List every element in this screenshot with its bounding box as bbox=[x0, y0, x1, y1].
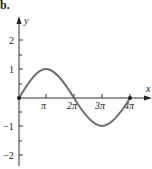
y-tick-label: 2 bbox=[9, 35, 14, 46]
y-tick-label: −2 bbox=[3, 150, 14, 161]
x-axis-label: x bbox=[145, 83, 151, 94]
y-axis-arrow-icon bbox=[17, 16, 22, 24]
y-axis-label: y bbox=[23, 15, 29, 26]
y-tick-label: 1 bbox=[9, 64, 14, 75]
end-point-marker bbox=[128, 96, 132, 100]
y-tick-label: −1 bbox=[3, 121, 14, 132]
x-axis-arrow-icon bbox=[144, 96, 152, 101]
x-ticks bbox=[46, 94, 130, 98]
x-tick-label: 3π bbox=[94, 100, 106, 111]
x-tick-label: π bbox=[41, 100, 47, 111]
start-point-marker bbox=[17, 96, 21, 100]
sine-chart: 2 1 −1 −2 π 2π 3π 4π y x bbox=[0, 0, 152, 169]
